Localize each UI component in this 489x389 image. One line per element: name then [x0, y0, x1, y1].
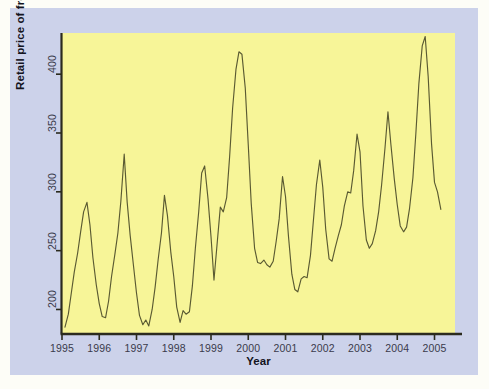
x-tick-label: 1996 — [79, 342, 119, 354]
x-tick-label: 1999 — [191, 342, 231, 354]
x-tick-label: 2001 — [266, 342, 306, 354]
plot-wrapper: 200250300350400 199519961997199819992000… — [0, 0, 489, 389]
y-axis-title: Retail price of fresh oranges — [14, 0, 26, 90]
series-line-retail-price — [65, 37, 441, 328]
x-tick-label: 1995 — [42, 342, 82, 354]
x-tick-label: 1997 — [117, 342, 157, 354]
x-tick-label: 2000 — [228, 342, 268, 354]
figure-container: 200250300350400 199519961997199819992000… — [0, 0, 489, 389]
x-tick-label: 2005 — [415, 342, 455, 354]
x-tick-label: 2004 — [377, 342, 417, 354]
x-tick-label: 2002 — [303, 342, 343, 354]
data-series-group — [65, 37, 441, 328]
x-axis-title: Year — [62, 355, 455, 367]
x-tick-marks — [62, 335, 435, 341]
x-tick-label: 2003 — [340, 342, 380, 354]
axis-lines — [61, 33, 463, 334]
chart-canvas — [0, 0, 489, 389]
x-tick-label: 1998 — [154, 342, 194, 354]
